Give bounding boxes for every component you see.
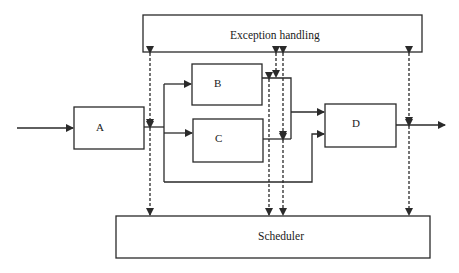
block-a-label: A bbox=[96, 121, 104, 133]
b-output-line bbox=[262, 78, 291, 139]
scheduler-block: Scheduler bbox=[116, 216, 430, 258]
block-c: C bbox=[193, 119, 263, 162]
block-c-label: C bbox=[215, 132, 222, 144]
block-d-label: D bbox=[352, 117, 360, 129]
exception-handling-block: Exception handling bbox=[143, 15, 422, 52]
block-b: B bbox=[192, 64, 262, 105]
block-diagram: Exception handling Scheduler A B C D bbox=[0, 0, 459, 273]
exception-handling-label: Exception handling bbox=[230, 29, 320, 42]
block-a: A bbox=[74, 107, 144, 149]
block-d: D bbox=[325, 104, 396, 147]
block-b-label: B bbox=[214, 77, 221, 89]
scheduler-label: Scheduler bbox=[258, 230, 304, 242]
